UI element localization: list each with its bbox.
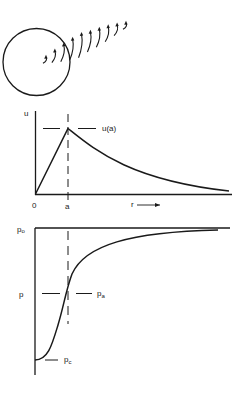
velocity-plot: u u(a) 0 a r [24, 109, 232, 211]
arrowhead-icon [106, 24, 109, 28]
flow-arrow [52, 51, 56, 63]
arrowhead-icon [53, 48, 56, 52]
arrowhead-icon [124, 21, 127, 25]
peak-label: u(a) [102, 124, 117, 133]
arrowhead-icon [89, 30, 92, 34]
flow-arrow [61, 45, 65, 62]
flow-arrow [114, 25, 118, 36]
origin-label: 0 [32, 201, 37, 210]
arrowhead-icon [71, 37, 74, 41]
pa-label: pa [97, 289, 105, 299]
r-axis-label: r [131, 200, 134, 209]
arrowhead-icon [115, 22, 118, 26]
right-arrow-icon [155, 203, 160, 207]
flow-arrows [43, 21, 128, 64]
u-axis-label: u [24, 109, 28, 118]
flow-arrow [79, 34, 83, 57]
flow-arrow [87, 32, 91, 52]
pressure-curve [35, 230, 218, 360]
velocity-curve [36, 129, 230, 195]
flow-arrow [96, 29, 100, 47]
p-infinity-label: po [17, 225, 25, 234]
p-label: p [19, 290, 24, 299]
a-tick-label: a [65, 202, 70, 211]
arrowhead-icon [98, 27, 101, 31]
arrowhead-icon [80, 32, 83, 36]
flow-arrow [105, 27, 109, 42]
sphere-circle [3, 29, 70, 96]
pressure-plot: po p pa pc [17, 225, 230, 375]
pc-label: pc [64, 355, 71, 365]
arrowhead-icon [44, 55, 47, 59]
sphere-illustration [3, 21, 128, 96]
diagram-canvas: u u(a) 0 a r po p pa pc [0, 0, 243, 397]
